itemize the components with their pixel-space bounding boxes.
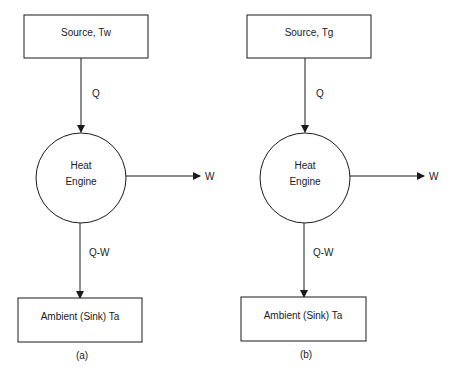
- engine-label-line2-a: Engine: [65, 176, 97, 187]
- diagram-a: Source, Tw Q Heat Engine W Q-W Ambient (…: [18, 15, 215, 361]
- caption-a: (a): [76, 350, 88, 361]
- engine-label-line1-a: Heat: [70, 160, 91, 171]
- diagram-b: Source, Tg Q Heat Engine W Q-W Ambient (…: [241, 15, 439, 360]
- work-out-label-a: W: [205, 171, 215, 182]
- work-out-label-b: W: [429, 171, 439, 182]
- source-label-b: Source, Tg: [285, 27, 334, 38]
- sink-label-b: Ambient (Sink) Ta: [264, 310, 343, 321]
- source-label-a: Source, Tw: [61, 27, 112, 38]
- engine-label-line1-b: Heat: [294, 160, 315, 171]
- heat-in-label-a: Q: [92, 88, 100, 99]
- heat-out-label-a: Q-W: [89, 247, 110, 258]
- caption-b: (b): [300, 349, 312, 360]
- heat-out-label-b: Q-W: [313, 247, 334, 258]
- heat-engine-diagrams: Source, Tw Q Heat Engine W Q-W Ambient (…: [0, 0, 451, 377]
- heat-in-label-b: Q: [316, 88, 324, 99]
- engine-label-line2-b: Engine: [289, 176, 321, 187]
- sink-label-a: Ambient (Sink) Ta: [41, 311, 120, 322]
